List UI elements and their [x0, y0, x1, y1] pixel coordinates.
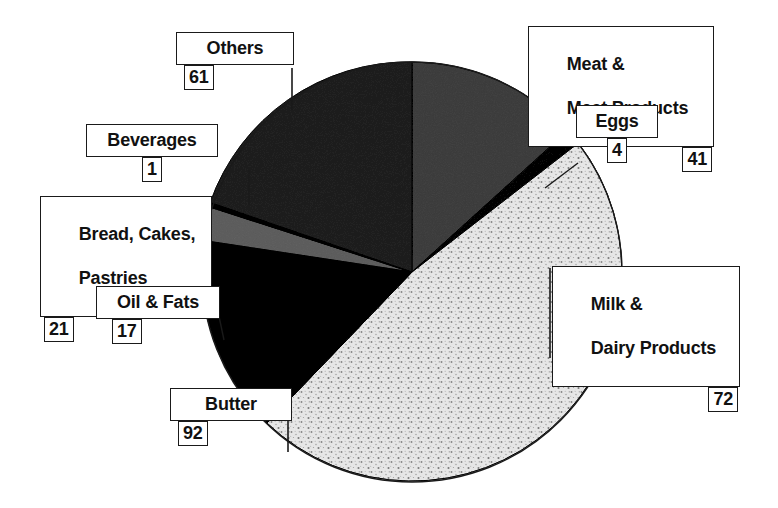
- callout-milk-label-line2: Dairy Products: [591, 338, 716, 358]
- callout-others[interactable]: Others 61: [176, 32, 294, 90]
- callout-others-value: 61: [184, 65, 214, 90]
- callout-others-label: Others: [176, 32, 294, 65]
- callout-bread-label-line1: Bread, Cakes,: [79, 224, 195, 244]
- callout-butter-label: Butter: [170, 388, 292, 421]
- callout-beverages-value: 1: [142, 157, 162, 182]
- callout-meat-value: 41: [682, 147, 712, 172]
- callout-oil-label: Oil & Fats: [96, 286, 220, 319]
- chart-canvas: Others 61 Beverages 1 Bread, Cakes, Past…: [0, 0, 778, 508]
- callout-bread-label-line2: Pastries: [79, 268, 147, 288]
- callout-butter[interactable]: Butter 92: [170, 388, 292, 446]
- callout-milk[interactable]: Milk & Dairy Products 72: [552, 266, 740, 412]
- callout-eggs-label: Eggs: [576, 105, 658, 138]
- callout-bread-value: 21: [44, 317, 74, 342]
- callout-milk-value: 72: [708, 387, 738, 412]
- callout-beverages-label: Beverages: [86, 124, 218, 157]
- callout-meat-label-line1: Meat &: [567, 54, 625, 74]
- callout-beverages[interactable]: Beverages 1: [86, 124, 218, 182]
- callout-eggs[interactable]: Eggs 4: [576, 105, 658, 163]
- callout-milk-label-line1: Milk &: [591, 294, 643, 314]
- callout-oil[interactable]: Oil & Fats 17: [96, 286, 220, 344]
- callout-eggs-value: 4: [607, 138, 627, 163]
- callout-butter-value: 92: [178, 421, 208, 446]
- callout-oil-value: 17: [112, 319, 142, 344]
